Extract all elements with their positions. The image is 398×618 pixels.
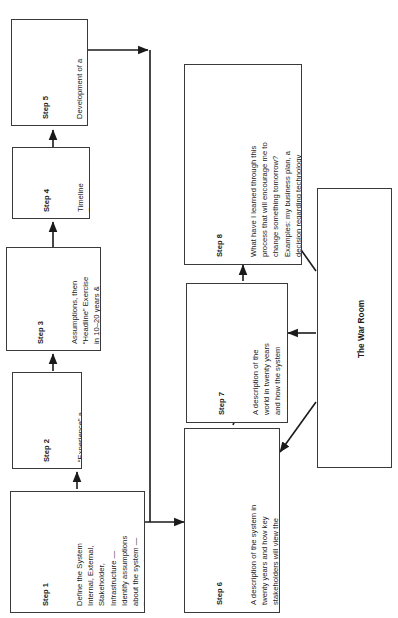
node-step7-text: Step 7 A description of the world in twe…	[187, 284, 288, 423]
diagram-canvas: Step 5 Development of a Vision and Belie…	[0, 0, 398, 618]
node-step4-body: Timeline Future History	[75, 156, 90, 212]
node-war-room[interactable]: The War Room Timeline Subject Matter Exp…	[317, 188, 392, 468]
node-step4[interactable]: Step 4 Timeline Future History	[12, 147, 90, 219]
node-step3-header: Step 3	[35, 256, 46, 344]
node-step5-body: Development of a Vision and Beliefs & Va…	[74, 28, 88, 119]
node-step6-body: A description of the system in twenty ye…	[248, 438, 280, 605]
node-step1-header: Step 1	[40, 500, 51, 606]
node-step1[interactable]: Step 1 Define the System Internal, Exter…	[10, 491, 145, 613]
node-step7[interactable]: Step 7 A description of the world in twe…	[186, 283, 288, 423]
node-step7-body: A description of the world in twenty yea…	[250, 293, 288, 415]
node-war-room-text: The War Room Timeline Subject Matter Exp…	[318, 189, 392, 468]
node-step7-header: Step 7	[216, 293, 227, 415]
node-step8[interactable]: Step 8 What have I learned through this …	[184, 64, 302, 265]
node-step3-body: Assumptions, then “Headline” Exercise in…	[69, 256, 101, 344]
node-step5[interactable]: Step 5 Development of a Vision and Belie…	[11, 19, 88, 126]
node-step1-body: Define the System Internal, External, St…	[74, 500, 145, 606]
node-step2-body: “Experience” a visionario or story about…	[75, 381, 82, 462]
node-step3-text: Step 3 Assumptions, then “Headline” Exer…	[7, 248, 101, 351]
node-step5-text: Step 5 Development of a Vision and Belie…	[12, 20, 88, 126]
node-step1-text: Step 1 Define the System Internal, Exter…	[11, 492, 145, 613]
node-step4-text: Step 4 Timeline Future History	[13, 148, 90, 219]
war-room-line1: The War Room	[355, 197, 368, 461]
node-step2-header: Step 2	[41, 381, 52, 462]
node-step4-header: Step 4	[41, 156, 52, 212]
node-step8-body: What have I learned through this process…	[248, 74, 302, 257]
node-step2[interactable]: Step 2 “Experience” a visionario or stor…	[12, 372, 82, 469]
node-step5-header: Step 5	[40, 28, 51, 119]
node-step8-header: Step 8	[214, 74, 225, 257]
node-step8-text: Step 8 What have I learned through this …	[185, 65, 302, 265]
node-step2-text: Step 2 “Experience” a visionario or stor…	[13, 373, 82, 469]
node-step6[interactable]: Step 6 A description of the system in tw…	[184, 428, 280, 613]
node-step6-header: Step 6	[214, 438, 225, 605]
node-step6-text: Step 6 A description of the system in tw…	[185, 429, 280, 613]
node-step3[interactable]: Step 3 Assumptions, then “Headline” Exer…	[6, 247, 101, 351]
